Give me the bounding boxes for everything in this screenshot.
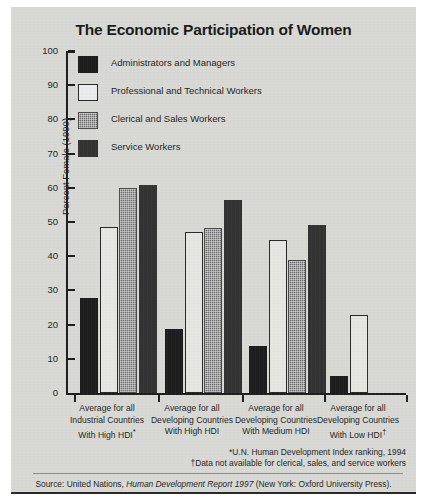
y-tick-label: 10: [28, 354, 58, 364]
y-tick-mark: [68, 324, 75, 326]
legend-item: Professional and Technical Workers: [78, 82, 358, 110]
y-axis-title: Percent Female (1990): [60, 102, 71, 232]
x-category-label: Average for allDeveloping CountriesWith …: [233, 403, 319, 438]
chart-page: The Economic Participation of Women 1009…: [0, 0, 427, 502]
legend-item-label: Clerical and Sales Workers: [111, 113, 225, 124]
x-category-line2: Industrial Countries: [64, 415, 150, 427]
y-tick-mark: [68, 358, 75, 360]
x-tick-mark: [242, 395, 244, 402]
bar-prof-group3: [269, 240, 287, 393]
bar-admin-group4: [330, 376, 348, 393]
bar-admin-group3: [249, 346, 267, 393]
x-tick-mark: [74, 395, 76, 402]
y-tick-mark: [68, 50, 75, 52]
source-line: Source: United Nations, Human Developmen…: [11, 479, 416, 489]
x-category-line1: Average for all: [149, 403, 235, 415]
y-tick-mark: [68, 221, 75, 223]
bar-admin-group2: [165, 329, 183, 393]
x-category-line3: With Medium HDI: [233, 426, 319, 438]
y-tick-labels: 1009080706050403020100: [28, 51, 58, 393]
chart-title: The Economic Participation of Women: [11, 21, 416, 39]
source-suffix: (New York: Oxford University Press).: [253, 479, 391, 489]
x-category-footnote-marker: †: [382, 427, 386, 436]
paper-background: The Economic Participation of Women 1009…: [11, 7, 416, 493]
bar-serv-group1: [139, 185, 157, 393]
bar-cler-group2: [204, 228, 222, 393]
legend-item: Clerical and Sales Workers: [78, 110, 358, 138]
y-tick-mark: [68, 255, 75, 257]
y-tick-label: 90: [28, 80, 58, 90]
y-tick-label: 40: [28, 251, 58, 261]
x-category-label: Average for allDeveloping CountriesWith …: [315, 403, 401, 442]
bar-serv-group3: [308, 225, 326, 393]
x-tick-mark: [324, 395, 326, 402]
x-category-label: Average for allDeveloping CountriesWith …: [149, 403, 235, 438]
bar-cler-group3: [288, 260, 306, 393]
x-tick-mark: [406, 395, 408, 402]
y-tick-mark: [68, 187, 75, 189]
source-divider: [33, 473, 403, 474]
x-category-line3: With Low HDI†: [315, 426, 401, 441]
footnote-dagger: †Data not available for clerical, sales,…: [11, 458, 406, 469]
legend-item: Service Workers: [78, 138, 358, 166]
x-category-footnote-marker: *: [133, 427, 136, 436]
legend-item-label: Service Workers: [111, 141, 181, 152]
legend-item: Administrators and Managers: [78, 54, 358, 82]
legend-swatch-icon: [78, 84, 98, 101]
y-tick-label: 30: [28, 285, 58, 295]
footnotes: *U.N. Human Development Index ranking, 1…: [11, 447, 406, 470]
y-tick-label: 0: [28, 388, 58, 398]
x-category-line1: Average for all: [233, 403, 319, 415]
x-tick-mark: [158, 395, 160, 402]
page-bottom-rule: [11, 492, 416, 494]
bar-prof-group2: [185, 232, 203, 393]
y-tick-label: 60: [28, 183, 58, 193]
y-tick-mark: [68, 153, 75, 155]
bar-cler-group1: [119, 188, 137, 393]
y-tick-mark: [68, 289, 75, 291]
y-tick-label: 20: [28, 320, 58, 330]
legend-item-label: Professional and Technical Workers: [111, 85, 262, 96]
y-tick-label: 50: [28, 217, 58, 227]
x-category-label: Average for allIndustrial CountriesWith …: [64, 403, 150, 442]
y-tick-mark: [68, 118, 75, 120]
bar-prof-group4: [350, 315, 368, 393]
x-category-line3: With High HDI: [149, 426, 235, 438]
x-category-line2: Developing Countries: [233, 415, 319, 427]
y-tick-label: 100: [28, 46, 58, 56]
footnote-asterisk: *U.N. Human Development Index ranking, 1…: [11, 447, 406, 458]
chart-legend: Administrators and ManagersProfessional …: [78, 54, 358, 166]
legend-swatch-icon: [78, 112, 98, 129]
x-axis-baseline: [66, 393, 406, 395]
y-tick-label: 80: [28, 114, 58, 124]
x-category-labels: Average for allIndustrial CountriesWith …: [66, 403, 411, 447]
x-category-line1: Average for all: [64, 403, 150, 415]
source-prefix: Source: United Nations,: [35, 479, 126, 489]
legend-item-label: Administrators and Managers: [111, 57, 235, 68]
bar-prof-group1: [100, 227, 118, 393]
bar-admin-group1: [80, 298, 98, 393]
y-tick-label: 70: [28, 149, 58, 159]
legend-swatch-icon: [78, 56, 98, 73]
x-category-line3: With High HDI*: [64, 426, 150, 441]
x-category-line2: Developing Countries: [315, 415, 401, 427]
source-title: Human Development Report 1997: [126, 479, 253, 489]
legend-swatch-icon: [78, 140, 98, 157]
x-category-line2: Developing Countries: [149, 415, 235, 427]
bar-serv-group2: [224, 200, 242, 393]
x-category-line1: Average for all: [315, 403, 401, 415]
y-tick-mark: [68, 84, 75, 86]
